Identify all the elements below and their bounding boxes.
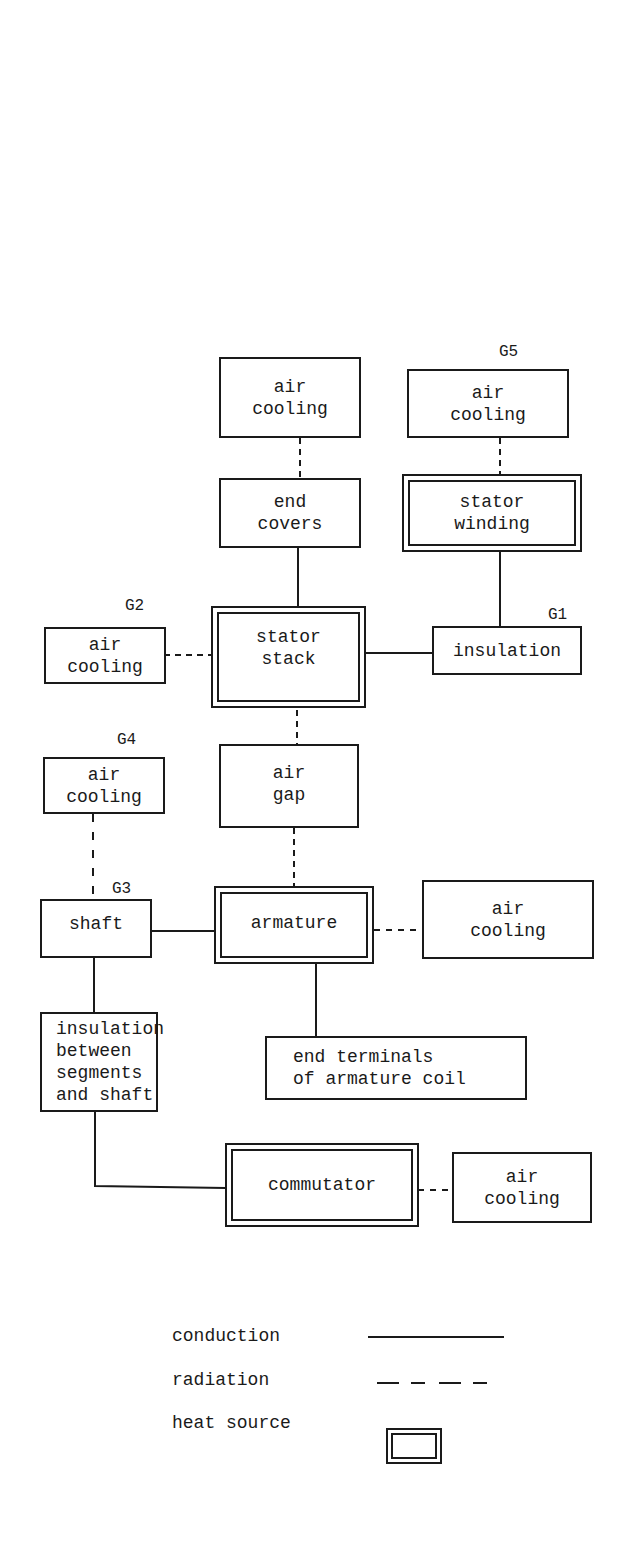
node-armature: armature	[214, 886, 374, 964]
node-shaft: shaft	[40, 899, 152, 958]
node-air-cooling-top: air cooling	[219, 357, 361, 438]
group-label-g3: G3	[112, 880, 131, 898]
node-air-cooling-armature: air cooling	[422, 880, 594, 959]
node-air-cooling-commutator: air cooling	[452, 1152, 592, 1223]
node-air-gap: air gap	[219, 744, 359, 828]
node-stator-stack: stator stack	[211, 606, 366, 708]
group-label-g2: G2	[125, 597, 144, 615]
node-commutator: commutator	[225, 1143, 419, 1227]
conduction-line	[95, 1112, 226, 1188]
group-label-g1: G1	[548, 606, 567, 624]
legend-heat-source-icon	[386, 1428, 442, 1464]
legend-radiation-label: radiation	[172, 1369, 269, 1391]
legend-radiation-line	[375, 1380, 501, 1386]
node-stator-winding: stator winding	[402, 474, 582, 552]
node-insulation-segments: insulation between segments and shaft	[40, 1012, 158, 1112]
node-air-cooling-g4: air cooling	[43, 757, 165, 814]
legend-conduction-label: conduction	[172, 1325, 280, 1347]
group-label-g4: G4	[117, 731, 136, 749]
node-insulation: insulation	[432, 626, 582, 675]
node-end-covers: end covers	[219, 478, 361, 548]
node-air-cooling-g2: air cooling	[44, 627, 166, 684]
node-end-terminals: end terminals of armature coil	[265, 1036, 527, 1100]
group-label-g5: G5	[499, 343, 518, 361]
legend-conduction-line	[366, 1334, 506, 1340]
node-air-cooling-g5: air cooling	[407, 369, 569, 438]
legend-heat-source-label: heat source	[172, 1412, 291, 1434]
